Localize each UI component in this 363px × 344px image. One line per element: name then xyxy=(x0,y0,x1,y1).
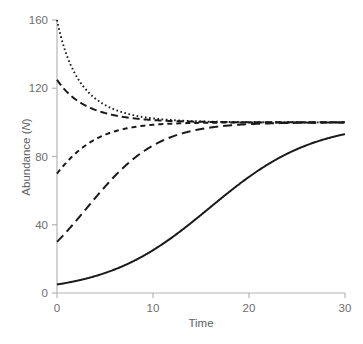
y-axis-title-text: Abundance ( xyxy=(20,130,32,195)
y-tick-label: 0 xyxy=(42,287,48,299)
x-tick-label: 0 xyxy=(54,302,60,314)
y-tick-label: 160 xyxy=(29,14,48,26)
y-axis-title-paren: ) xyxy=(20,118,32,122)
x-axis-title: Time xyxy=(188,317,213,329)
x-tick-label: 30 xyxy=(339,302,352,314)
logistic-growth-figure: 04080120160 0102030 Time Abundance (N) xyxy=(0,0,363,344)
y-tick-label: 40 xyxy=(35,219,48,231)
y-axis-title: Abundance (N) xyxy=(20,118,32,196)
y-tick-label: 120 xyxy=(29,82,48,94)
x-tick-label: 10 xyxy=(147,302,160,314)
chart-canvas: 04080120160 0102030 Time Abundance (N) xyxy=(0,0,363,344)
x-tick-label: 20 xyxy=(243,302,256,314)
y-tick-label: 80 xyxy=(35,151,48,163)
